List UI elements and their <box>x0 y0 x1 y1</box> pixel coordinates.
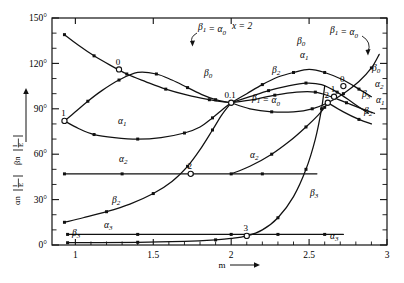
data-point <box>323 71 326 74</box>
data-point <box>93 54 96 57</box>
data-point <box>63 33 66 36</box>
y-label-E-lower: E <box>17 183 25 187</box>
branch-marker <box>244 233 249 238</box>
data-point <box>304 82 307 85</box>
data-point <box>261 172 264 175</box>
branch-marker-label: 0 <box>116 57 121 67</box>
data-point <box>270 153 273 156</box>
data-point <box>261 83 264 86</box>
x-tick-label: 1 <box>73 250 78 260</box>
data-point <box>63 221 66 224</box>
data-point <box>186 86 189 89</box>
y-label-E-upper: E <box>17 143 25 147</box>
branch-marker <box>331 94 336 99</box>
x-axis-label-text: m <box>218 260 225 270</box>
data-point <box>357 88 360 91</box>
data-point <box>136 233 139 236</box>
data-point <box>230 233 233 236</box>
data-point <box>136 138 139 141</box>
data-point <box>66 241 69 244</box>
data-point <box>86 100 89 103</box>
data-point <box>152 192 155 195</box>
chart-figure: 11.522.530°30°60°90°120°150° 0120.13012 … <box>0 0 404 283</box>
branch-marker-label: 2 <box>325 90 330 100</box>
data-point <box>105 210 108 213</box>
branch-marker-label: 2 <box>187 161 192 171</box>
branch-marker <box>188 171 193 176</box>
y-label-alpha-n: αn <box>12 196 22 205</box>
data-point <box>292 71 295 74</box>
data-point <box>314 91 317 94</box>
branch-marker-label: 1 <box>61 108 66 118</box>
x-tick-label: 1.5 <box>147 250 159 260</box>
data-point <box>304 168 307 171</box>
data-point <box>118 79 121 82</box>
branch-marker <box>229 100 234 105</box>
branch-marker-label: 3 <box>244 223 249 233</box>
branch-marker <box>341 84 346 89</box>
data-point <box>125 72 128 75</box>
data-point <box>311 107 314 110</box>
data-point <box>164 88 167 91</box>
data-point <box>63 172 66 175</box>
y-label-beta-n: βn <box>12 156 22 165</box>
data-point <box>304 125 307 128</box>
data-point <box>66 233 69 236</box>
data-point <box>357 118 360 121</box>
data-point <box>345 101 348 104</box>
data-point <box>230 172 233 175</box>
data-point <box>155 72 158 75</box>
x-tick-label: 2.5 <box>303 250 315 260</box>
branch-marker-label: 0 <box>340 74 345 84</box>
chart-svg: 11.522.530°30°60°90°120°150° 0120.13012 … <box>0 0 404 283</box>
y-tick-label: 0° <box>38 240 47 250</box>
branch-marker <box>62 118 67 123</box>
y-tick-label: 150° <box>29 13 47 23</box>
data-point <box>214 238 217 241</box>
y-tick-label: 90° <box>34 104 48 114</box>
curve-label: x = 2 <box>231 21 252 31</box>
y-tick-label: 120° <box>29 59 47 69</box>
x-tick-label: 3 <box>385 250 390 260</box>
data-point <box>214 98 217 101</box>
data-point <box>342 92 345 95</box>
data-point <box>211 116 214 119</box>
data-point <box>211 128 214 131</box>
data-point <box>93 133 96 136</box>
branch-marker <box>325 100 330 105</box>
x-tick-label: 2 <box>229 250 234 260</box>
data-point <box>336 91 339 94</box>
data-point <box>323 106 326 109</box>
branch-marker <box>116 67 121 72</box>
y-tick-label: 30° <box>34 195 48 205</box>
branch-marker-label: 0.1 <box>225 90 236 100</box>
data-point <box>323 233 326 236</box>
data-point <box>276 216 279 219</box>
data-point <box>183 132 186 135</box>
data-point <box>270 110 273 113</box>
data-point <box>121 172 124 175</box>
data-point <box>136 241 139 244</box>
y-tick-label: 60° <box>34 149 48 159</box>
data-point <box>267 89 270 92</box>
branch-marker-label: 1 <box>331 84 336 94</box>
data-point <box>276 233 279 236</box>
